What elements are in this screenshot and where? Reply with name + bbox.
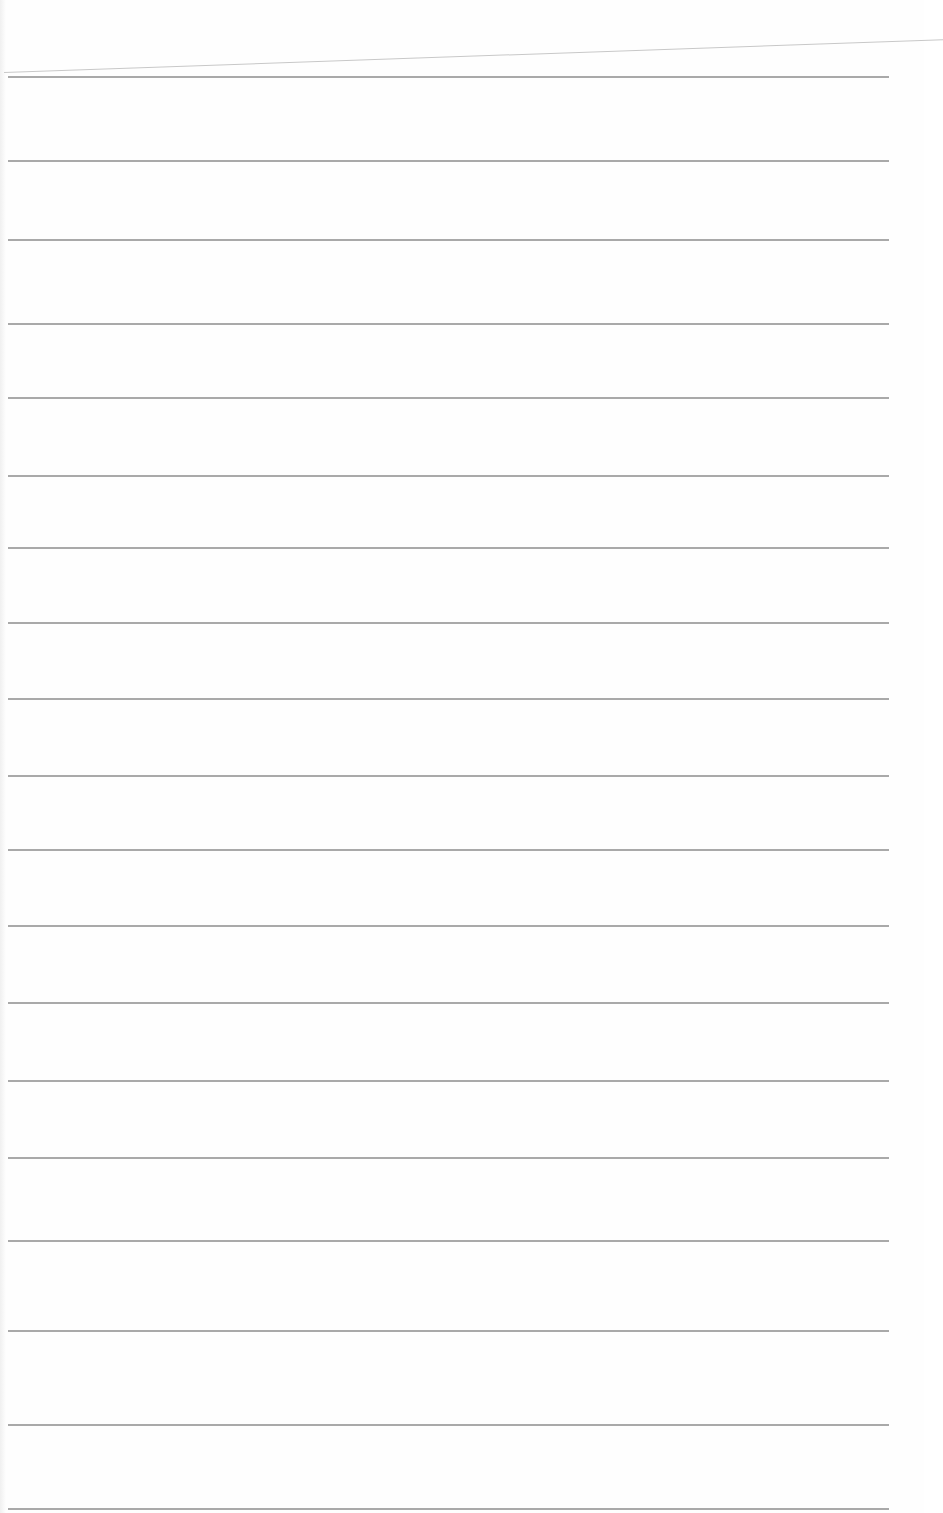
ruled-line [8, 925, 889, 927]
ruled-line [8, 849, 889, 851]
ruled-line [8, 397, 889, 399]
page-edge-shadow [0, 0, 6, 1513]
ruled-line [8, 1240, 889, 1242]
ruled-line [8, 323, 889, 325]
ruled-line [8, 1080, 889, 1082]
ruled-line [8, 1002, 889, 1004]
ruled-line [8, 160, 889, 162]
ruled-line [8, 698, 889, 700]
ruled-line [8, 1508, 889, 1510]
ruled-line [8, 239, 889, 241]
ruled-line [8, 775, 889, 777]
ruled-line [8, 76, 889, 78]
ruled-line [8, 1424, 889, 1426]
ruled-line [8, 622, 889, 624]
ruled-line [8, 1330, 889, 1332]
ruled-line [8, 1157, 889, 1159]
ruled-line [8, 475, 889, 477]
paper-top-edge [4, 39, 943, 73]
ruled-line [8, 547, 889, 549]
